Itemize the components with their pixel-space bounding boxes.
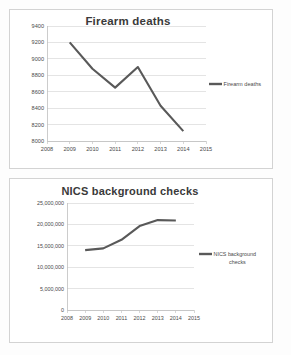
ytick-label: 0 — [61, 307, 64, 313]
ytick-label: 8000 — [32, 138, 44, 144]
chart-panel-firearm-deaths: Firearm deaths 8000820084008600880090009… — [9, 9, 273, 169]
ytick-label: 25,000,000 — [37, 200, 64, 206]
ytick-label: 20,000,000 — [37, 221, 64, 227]
xtick-label: 2009 — [79, 315, 91, 321]
xtick-label: 2011 — [109, 146, 121, 152]
xtick-labels-firearm: 20082009201020112012201320142015 — [41, 146, 212, 152]
ytick-label: 8600 — [32, 89, 44, 95]
ytick-label: 8800 — [32, 72, 44, 78]
ytick-label: 9200 — [32, 39, 44, 45]
xtick-label: 2008 — [41, 146, 53, 152]
xtick-label: 2015 — [188, 315, 200, 321]
xtick-label: 2008 — [61, 315, 73, 321]
chart-title-nics-background-checks: NICS background checks — [9, 185, 272, 197]
plot-series-firearm — [70, 42, 184, 131]
chart-panel-nics-background-checks: NICS background checks 05,000,00010,000,… — [9, 178, 273, 343]
axis-nics — [67, 203, 194, 313]
xtick-label: 2014 — [177, 146, 189, 152]
ytick-label: 15,000,000 — [37, 243, 64, 249]
xtick-label: 2009 — [63, 146, 75, 152]
ytick-label: 5,000,000 — [40, 286, 64, 292]
ytick-labels-nics: 05,000,00010,000,00015,000,00020,000,000… — [37, 200, 64, 313]
ytick-label: 8400 — [32, 105, 44, 111]
page-container: Firearm deaths 8000820084008600880090009… — [0, 0, 291, 355]
xtick-label: 2010 — [97, 315, 109, 321]
legend-label-line2: checks — [229, 259, 246, 265]
xtick-labels-nics: 20082009201020112012201320142015 — [61, 315, 200, 321]
chart-title-firearm-deaths: Firearm deaths — [9, 15, 272, 27]
ytick-labels-firearm: 80008200840086008800900092009400 — [32, 23, 44, 144]
xtick-label: 2013 — [152, 315, 164, 321]
ytick-label: 9000 — [32, 56, 44, 62]
xtick-label: 2015 — [200, 146, 212, 152]
gridlines-nics — [67, 203, 194, 310]
line-chart-nics-background-checks: 05,000,00010,000,00015,000,00020,000,000… — [10, 179, 273, 342]
xtick-label: 2014 — [170, 315, 182, 321]
xtick-label: 2013 — [154, 146, 166, 152]
legend-firearm: Firearm deaths — [209, 81, 261, 87]
xtick-label: 2012 — [132, 146, 144, 152]
xtick-label: 2011 — [116, 315, 128, 321]
line-chart-firearm-deaths: 80008200840086008800900092009400 2008200… — [10, 10, 273, 168]
legend-nics: NICS backgroundchecks — [199, 251, 256, 265]
legend-label: Firearm deaths — [224, 81, 262, 87]
series-line-firearm — [70, 42, 184, 131]
xtick-label: 2010 — [86, 146, 98, 152]
ytick-label: 10,000,000 — [37, 264, 64, 270]
legend-label: NICS background — [214, 251, 257, 257]
ytick-label: 8200 — [32, 122, 44, 128]
xtick-label: 2012 — [134, 315, 146, 321]
